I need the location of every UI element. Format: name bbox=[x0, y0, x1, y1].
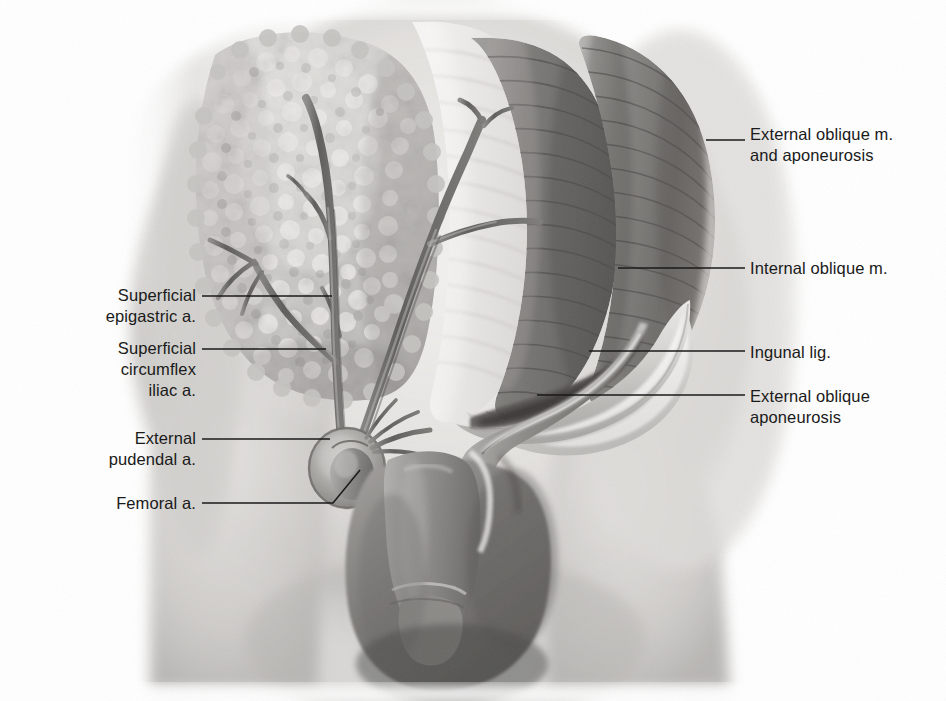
label-superficial-epigastric-a: Superficial epigastric a. bbox=[106, 285, 196, 327]
label-internal-oblique-m: Internal oblique m. bbox=[750, 258, 888, 279]
label-femoral-a: Femoral a. bbox=[116, 493, 196, 514]
label-external-oblique-aponeurosis: External oblique aponeurosis bbox=[750, 386, 870, 428]
label-external-oblique-m-and-aponeurosis: External oblique m. and aponeurosis bbox=[750, 124, 893, 166]
anatomical-figure: External oblique m. and aponeurosis Inte… bbox=[0, 0, 946, 701]
label-superficial-circumflex-iliac-a: Superficial circumflex iliac a. bbox=[118, 338, 196, 401]
label-external-pudendal-a: External pudendal a. bbox=[109, 428, 196, 470]
label-ingunal-lig: Ingunal lig. bbox=[750, 342, 831, 363]
